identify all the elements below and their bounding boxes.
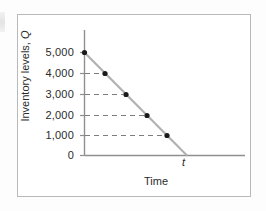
y-tick-label-5000: 5,000 bbox=[30, 46, 74, 58]
t-axis-marker-label: t bbox=[182, 156, 185, 168]
data-point-4000 bbox=[102, 71, 107, 76]
inventory-depletion-line bbox=[85, 53, 188, 156]
y-axis-title-variable: Q bbox=[19, 30, 31, 39]
y-axis-title-text: Inventory levels, bbox=[19, 39, 31, 122]
data-point-3000 bbox=[123, 92, 128, 97]
guide-lines bbox=[85, 74, 165, 136]
data-point-2000 bbox=[144, 113, 149, 118]
data-point-5000 bbox=[82, 50, 87, 55]
y-tick-label-3000: 3,000 bbox=[30, 88, 74, 100]
y-tick-label-0: 0 bbox=[30, 149, 74, 161]
data-point-1000 bbox=[164, 133, 169, 138]
y-tick-label-4000: 4,000 bbox=[30, 67, 74, 79]
y-tick-label-2000: 2,000 bbox=[30, 109, 74, 121]
y-axis-title: Inventory levels, Q bbox=[19, 6, 31, 146]
y-tick-label-1000: 1,000 bbox=[30, 129, 74, 141]
x-axis-title: Time bbox=[116, 175, 196, 187]
